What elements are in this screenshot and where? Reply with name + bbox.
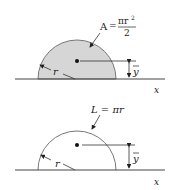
length-pointer-arrow — [92, 115, 100, 129]
centroid-dot — [75, 59, 79, 63]
radius-line — [63, 164, 75, 170]
ybar-label: y — [132, 66, 139, 77]
radius-arrow — [41, 155, 51, 160]
x-axis-label: x — [154, 85, 159, 95]
area-formula-eq: = — [109, 21, 117, 31]
area-formula-lhs: A — [99, 21, 108, 32]
semicircle-arc-shape — [38, 131, 116, 170]
area-formula-exponent: 2 — [131, 14, 135, 21]
radius-label: r — [55, 158, 61, 169]
area-formula-numerator: πr — [118, 16, 129, 26]
length-formula: L = πr — [90, 104, 125, 115]
semicircular-arc-figure: r L = πr y x — [15, 104, 165, 187]
x-axis-label: x — [154, 177, 159, 187]
area-formula-denominator: 2 — [124, 28, 130, 38]
semicircular-area-figure: r A = πr 2 2 y x — [15, 14, 165, 95]
centroid-dot — [75, 143, 79, 147]
ybar-label: y — [132, 153, 139, 164]
